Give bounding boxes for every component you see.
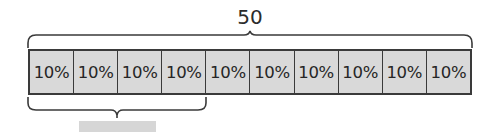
- answer-box[interactable]: [79, 121, 156, 132]
- bottom-brace: [0, 0, 497, 132]
